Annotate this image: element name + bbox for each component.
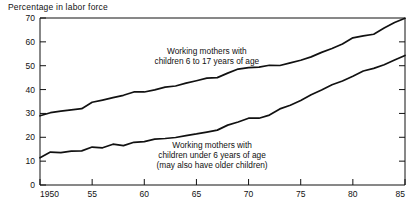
x-tick-label: 85 (396, 189, 406, 199)
x-tick-label: 65 (192, 189, 202, 199)
older-children-label-line: children 6 to 17 years of age (155, 56, 260, 66)
data-series-group (40, 18, 405, 158)
y-tick-label: 70 (26, 13, 36, 23)
series-line-0 (40, 18, 405, 116)
young-children-label-line: Working mothers with (172, 140, 252, 150)
y-tick-label: 30 (26, 108, 36, 118)
y-tick-label: 60 (26, 37, 36, 47)
x-tick-label: 1950 (40, 189, 59, 199)
y-tick-label: 0 (30, 180, 35, 190)
x-tick-label: 70 (244, 189, 254, 199)
y-tick-label: 10 (26, 156, 36, 166)
y-tick-label: 40 (26, 85, 36, 95)
chart-container: Percentage in labor force 01020304050607… (0, 0, 416, 208)
young-children-label-line: children under 6 years of age (158, 150, 266, 160)
x-tick-label: 60 (140, 189, 150, 199)
y-tick-label: 50 (26, 61, 36, 71)
y-tick-label: 20 (26, 132, 36, 142)
x-tick-label: 80 (348, 189, 358, 199)
x-axis-ticks: 195055606570758085 (40, 179, 405, 199)
chart-plot: 010203040506070 195055606570758085 Worki… (0, 0, 416, 208)
series-annotations: Working mothers withchildren 6 to 17 yea… (155, 46, 268, 170)
x-tick-label: 75 (296, 189, 306, 199)
young-children-label-line: (may also have older children) (157, 160, 268, 170)
older-children-label-line: Working mothers with (167, 46, 247, 56)
x-tick-label: 55 (87, 189, 97, 199)
